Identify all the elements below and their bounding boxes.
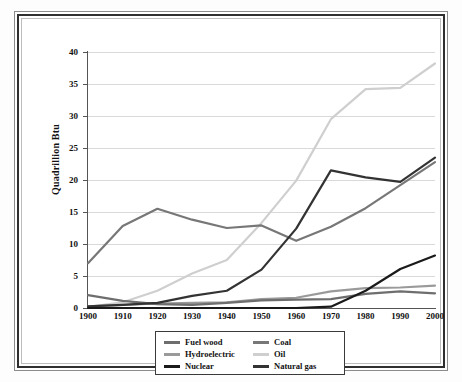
y-axis-tick — [83, 52, 87, 53]
legend-entry: Hydroelectric — [164, 348, 249, 360]
legend-label: Nuclear — [185, 361, 214, 371]
y-axis-tick-label: 40 — [56, 48, 78, 57]
y-axis-tick-label: 15 — [56, 208, 78, 217]
y-axis-tick-label: 10 — [56, 240, 78, 249]
legend-label: Coal — [274, 337, 291, 347]
y-axis-tick-label: 20 — [56, 176, 78, 185]
y-axis-tick-label: 25 — [56, 144, 78, 153]
legend: Fuel woodCoalHydroelectricOilNuclearNatu… — [155, 331, 345, 375]
y-axis-tick — [83, 116, 87, 117]
chart-page: Quadrillion Btu 0510152025303540 1900191… — [0, 0, 462, 382]
legend-entry: Natural gas — [253, 360, 338, 372]
y-axis-tick — [83, 308, 87, 309]
legend-label: Hydroelectric — [185, 349, 235, 359]
legend-entry: Fuel wood — [164, 336, 249, 348]
y-axis-tick — [83, 276, 87, 277]
legend-entry: Oil — [253, 348, 338, 360]
y-axis-tick-label: 30 — [56, 112, 78, 121]
y-axis-tick — [83, 244, 87, 245]
y-axis-tick — [83, 84, 87, 85]
y-axis-tick-label: 35 — [56, 80, 78, 89]
legend-swatch-icon — [253, 365, 269, 368]
y-axis-tick-label: 5 — [56, 272, 78, 281]
plot-area — [88, 52, 435, 308]
frame-hairline-border: Quadrillion Btu 0510152025303540 1900191… — [21, 18, 441, 364]
legend-label: Fuel wood — [185, 337, 223, 347]
y-axis-tick — [83, 212, 87, 213]
legend-label: Oil — [274, 349, 285, 359]
legend-swatch-icon — [164, 365, 180, 368]
legend-swatch-icon — [164, 353, 180, 356]
y-axis-tick — [83, 180, 87, 181]
x-axis-tick-label: 2000 — [415, 311, 455, 322]
legend-swatch-icon — [164, 341, 180, 344]
legend-label: Natural gas — [274, 361, 316, 371]
series-line-natural-gas — [88, 158, 435, 307]
legend-swatch-icon — [253, 353, 269, 356]
legend-entry: Nuclear — [164, 360, 249, 372]
y-axis-tick — [83, 148, 87, 149]
legend-entry: Coal — [253, 336, 338, 348]
legend-swatch-icon — [253, 341, 269, 344]
series-line-coal — [88, 162, 435, 263]
series-lines — [88, 52, 435, 308]
legend-grid: Fuel woodCoalHydroelectricOilNuclearNatu… — [164, 336, 338, 372]
